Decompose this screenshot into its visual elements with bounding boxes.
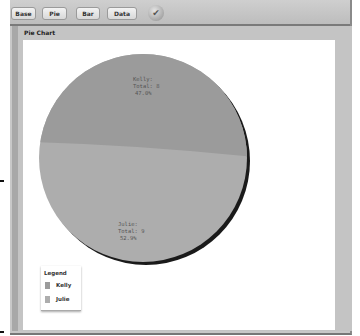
plot-area: Kelly: Total: 8 47.0% Julie: Total: 9 52… (23, 40, 335, 330)
julie-swatch (45, 296, 50, 303)
bar-button[interactable]: Bar (76, 7, 100, 20)
kelly-swatch (45, 282, 50, 289)
legend-item-julie[interactable]: Julie (45, 295, 69, 303)
data-button[interactable]: Data (107, 7, 137, 20)
julie-total: Total: 9 (118, 228, 145, 235)
panel-title: Pie Chart (24, 29, 55, 36)
pie-chart-panel: Pie Chart Kelly: Total: 8 47.0% Julie: (12, 26, 352, 331)
julie-percent: 52.9% (118, 235, 145, 242)
slice-kelly[interactable] (33, 40, 253, 157)
legend-item-kelly[interactable]: Kelly (45, 281, 71, 289)
legend-label-kelly: Kelly (56, 282, 71, 288)
kelly-name: Kelly: (133, 76, 160, 83)
edge-marker (0, 180, 4, 182)
kelly-total: Total: 8 (133, 83, 160, 90)
toolbar: Base Pie Bar Data ✔ (10, 0, 350, 26)
pie-button[interactable]: Pie (42, 7, 67, 20)
checkmark-icon[interactable]: ✔ (148, 5, 164, 21)
julie-name: Julie: (118, 221, 145, 228)
legend: Legend Kelly Julie (41, 266, 81, 311)
kelly-percent: 47.0% (133, 90, 160, 97)
legend-label-julie: Julie (56, 296, 69, 302)
edge-marker (0, 331, 4, 333)
base-button[interactable]: Base (11, 7, 36, 20)
kelly-slice-label: Kelly: Total: 8 47.0% (133, 76, 160, 97)
julie-slice-label: Julie: Total: 9 52.9% (118, 221, 145, 242)
legend-title: Legend (44, 270, 67, 276)
chart-app-window: Base Pie Bar Data ✔ Pie Chart Kelly: Tot… (10, 0, 352, 335)
